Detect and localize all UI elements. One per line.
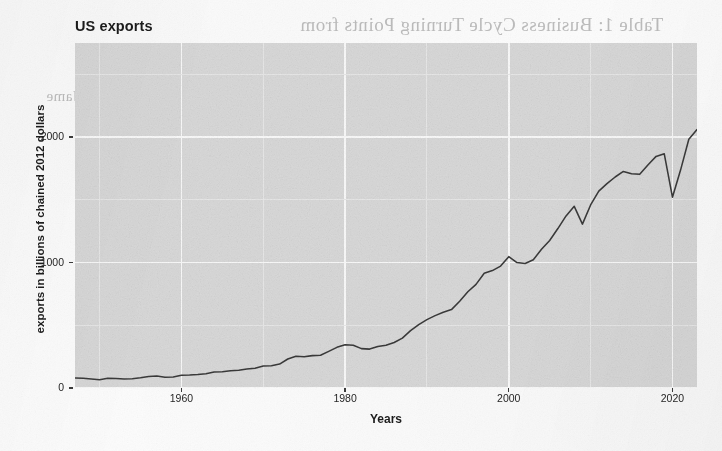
x-tick-label: 1960	[151, 392, 211, 404]
y-tick-mark	[69, 262, 73, 263]
panel-scan-noise	[75, 43, 697, 388]
page-title: US exports	[75, 18, 153, 34]
y-tick-mark	[69, 387, 73, 388]
y-tick-label: 1000	[12, 256, 64, 268]
x-tick-label: 1980	[315, 392, 375, 404]
x-tick-label: 2020	[642, 392, 702, 404]
plot-panel	[75, 43, 697, 388]
x-axis-title: Years	[75, 412, 697, 426]
x-tick-mark	[672, 388, 673, 392]
x-tick-label: 2000	[479, 392, 539, 404]
ggplot-figure: US exports exports in billions of chaine…	[0, 0, 722, 451]
scanned-page: Table 1: Business Cycle Turning Points f…	[0, 0, 722, 451]
x-tick-mark	[508, 388, 509, 392]
y-tick-label: 0	[12, 381, 64, 393]
y-axis-title: exports in billions of chained 2012 doll…	[34, 54, 46, 384]
x-tick-mark	[344, 388, 345, 392]
x-tick-mark	[181, 388, 182, 392]
y-tick-mark	[69, 136, 73, 137]
y-tick-label: 2000	[12, 130, 64, 142]
